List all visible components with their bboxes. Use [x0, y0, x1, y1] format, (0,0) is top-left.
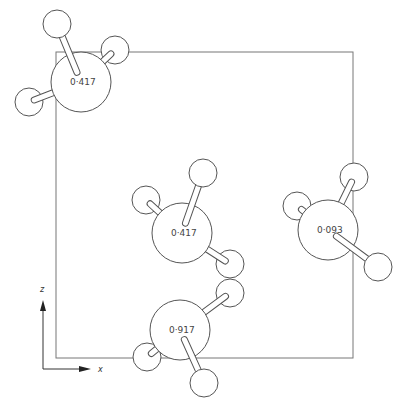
molecule: 0·093: [283, 163, 392, 281]
molecule: 0·917: [133, 279, 244, 397]
hydrogen-atom: [15, 88, 43, 116]
height-label: 0·417: [70, 77, 96, 87]
axes-indicator: z x: [39, 285, 103, 374]
height-label: 0·417: [171, 228, 197, 238]
x-axis-label: x: [97, 365, 103, 374]
crystal-structure-diagram: z x 0·4170·4170·0930·917: [0, 0, 406, 409]
z-arrowhead-icon: [40, 300, 46, 311]
molecule: 0·417: [15, 10, 129, 116]
hydrogen-atom: [340, 163, 368, 191]
molecule: 0·417: [132, 159, 244, 278]
hydrogen-atom: [43, 10, 71, 38]
x-arrowhead-icon: [79, 366, 91, 372]
height-label: 0·093: [317, 225, 343, 235]
hydrogen-atom: [190, 369, 218, 397]
z-axis-label: z: [39, 285, 45, 294]
height-label: 0·917: [169, 325, 195, 335]
hydrogen-atom: [189, 159, 217, 187]
hydrogen-atom: [364, 253, 392, 281]
molecules-layer: 0·4170·4170·0930·917: [15, 10, 392, 397]
